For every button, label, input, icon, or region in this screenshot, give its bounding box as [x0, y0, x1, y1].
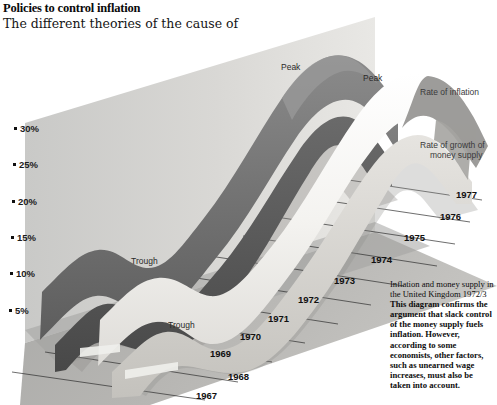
y-tick-label-5: 5%: [15, 305, 29, 316]
annotation-peak-2: Peak: [363, 73, 382, 83]
x-tick-label-1975: 1975: [404, 232, 425, 243]
y-tick-dot: [9, 309, 12, 312]
annotation-trough-2: Trough: [168, 320, 195, 330]
x-tick-label-1968: 1968: [228, 371, 249, 382]
x-tick-label-1967: 1967: [196, 390, 217, 401]
page-subtitle: The different theories of the cause of: [3, 16, 333, 32]
y-tick-dot: [12, 200, 15, 203]
title-block: Policies to control inflation The differ…: [3, 1, 333, 32]
y-tick-label-30: 30%: [20, 123, 39, 134]
y-tick-label-15: 15%: [17, 232, 36, 243]
page-title: Policies to control inflation: [3, 1, 333, 15]
x-tick-label-1972: 1972: [298, 294, 319, 305]
y-tick-dot: [13, 163, 16, 166]
y-tick-dot: [10, 272, 13, 275]
caption-plain: Inflation and money supply in the United…: [390, 279, 494, 299]
legend-rate-of-inflation: Rate of inflation: [420, 87, 479, 97]
annotation-peak-1: Peak: [281, 62, 300, 72]
x-tick-label-1976: 1976: [440, 211, 461, 222]
legend-money-supply: Rate of growth of money supply: [420, 140, 485, 160]
x-tick-label-1970: 1970: [240, 331, 261, 342]
caption-bold: This diagram confirms the argument that …: [390, 299, 492, 390]
x-tick-label-1969: 1969: [210, 348, 231, 359]
x-tick-label-1977: 1977: [456, 189, 477, 200]
y-tick-label-10: 10%: [16, 268, 35, 279]
caption-block: Inflation and money supply in the United…: [390, 279, 494, 390]
infographic-stage: Policies to control inflation The differ…: [0, 0, 497, 405]
legend-money-supply-line2: money supply: [420, 150, 485, 160]
x-tick-label-1973: 1973: [334, 275, 355, 286]
legend-money-supply-line1: Rate of growth of: [420, 140, 485, 150]
annotation-trough-1: Trough: [131, 256, 158, 266]
y-tick-dot: [11, 236, 14, 239]
x-tick-label-1971: 1971: [268, 313, 289, 324]
y-tick-dot: [14, 127, 17, 130]
y-tick-label-25: 25%: [19, 159, 38, 170]
y-tick-label-20: 20%: [18, 196, 37, 207]
x-tick-label-1974: 1974: [371, 254, 392, 265]
